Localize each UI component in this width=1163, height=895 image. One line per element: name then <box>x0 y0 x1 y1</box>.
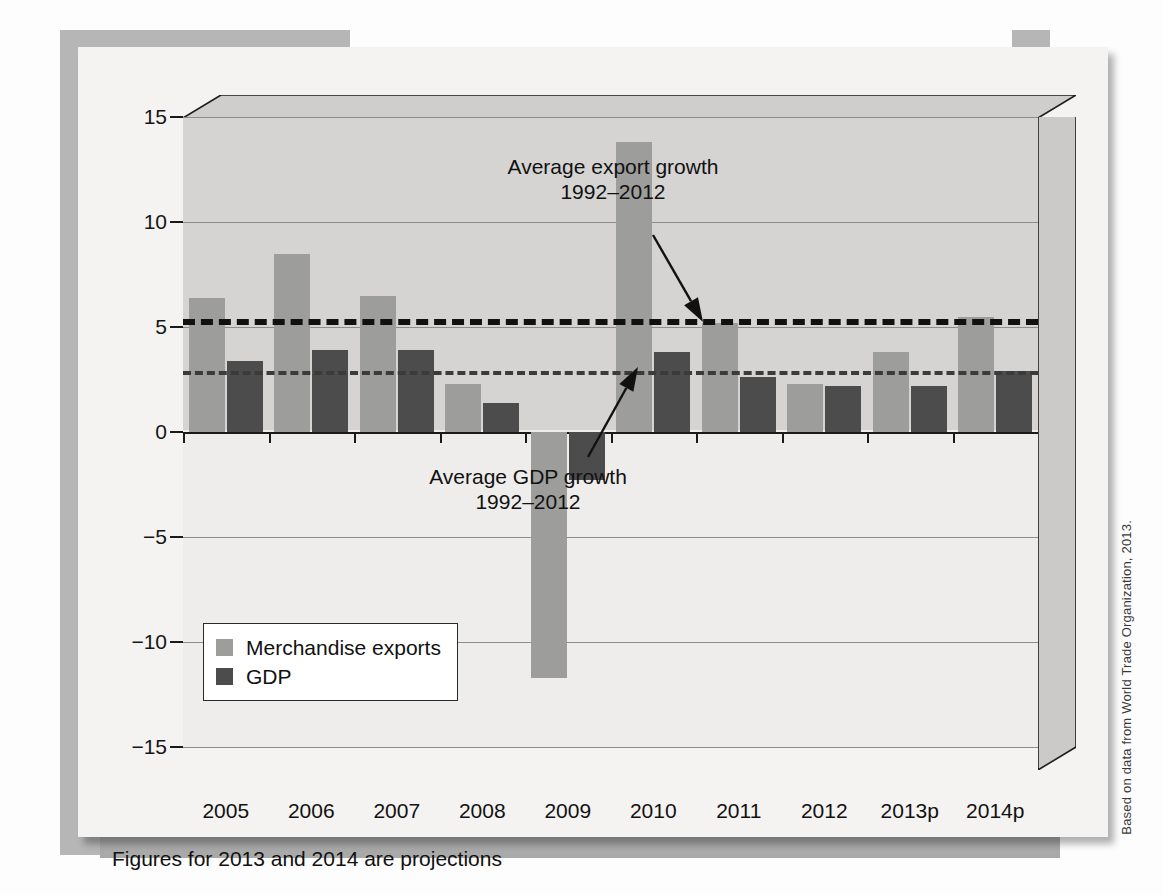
annotation-average-gdp-growth-line1: Average GDP growth <box>429 465 627 490</box>
bar-merchandise-exports-2006 <box>274 254 310 433</box>
x-axis-label-2009: 2009 <box>544 799 591 823</box>
average-gdp-growth-line <box>183 371 1038 375</box>
bar-gdp-2006 <box>312 350 348 432</box>
x-axis-label-2007: 2007 <box>373 799 420 823</box>
y-axis-tick-mark <box>170 641 183 643</box>
bar-gdp-2007 <box>398 350 434 432</box>
bar-gdp-2014p <box>996 371 1032 432</box>
average-export-growth-line <box>183 319 1038 325</box>
gridline <box>183 327 1038 328</box>
y-axis-tick-mark <box>170 326 183 328</box>
x-axis-tick-mark <box>183 432 185 443</box>
bar-gdp-2013p <box>911 386 947 432</box>
y-axis-tick-mark <box>170 746 183 748</box>
x-axis-tick-mark <box>525 432 527 443</box>
gridline <box>183 537 1038 538</box>
y-axis-tick-label: −5 <box>143 525 167 549</box>
bar-gdp-2012 <box>825 386 861 432</box>
x-axis-label-2013p: 2013p <box>881 799 939 823</box>
figure-page: 151050−5−10−15Average export growth1992–… <box>0 0 1163 895</box>
y-axis-tick-label: 10 <box>144 210 167 234</box>
bar-gdp-2008 <box>483 403 519 432</box>
y-axis-tick-mark <box>170 221 183 223</box>
figure-footnote: Figures for 2013 and 2014 are projection… <box>112 847 502 871</box>
y-axis-tick-mark <box>170 536 183 538</box>
y-axis-tick-mark <box>170 431 183 433</box>
x-axis-label-2014p: 2014p <box>966 799 1024 823</box>
y-axis-tick-label: 0 <box>155 420 167 444</box>
bar-merchandise-exports-2011 <box>702 323 738 432</box>
x-axis-label-2006: 2006 <box>288 799 335 823</box>
x-axis-label-2008: 2008 <box>459 799 506 823</box>
figure-card: 151050−5−10−15Average export growth1992–… <box>78 47 1108 837</box>
x-axis-labels: 200520062007200820092010201120122013p201… <box>183 799 1038 829</box>
source-credit: Based on data from World Trade Organizat… <box>1119 520 1134 835</box>
y-axis-tick-mark <box>170 116 183 118</box>
y-axis-tick-label: −10 <box>131 630 167 654</box>
bar-merchandise-exports-2013p <box>873 352 909 432</box>
x-axis-tick-mark <box>269 432 271 443</box>
y-axis-tick-label: −15 <box>131 735 167 759</box>
legend-item-merchandise-exports: Merchandise exports <box>216 633 441 662</box>
x-axis-label-2010: 2010 <box>630 799 677 823</box>
legend-label-merchandise-exports: Merchandise exports <box>246 636 441 660</box>
x-axis-tick-mark <box>867 432 869 443</box>
gridline <box>183 117 1038 118</box>
chart-box-right-bevel <box>1038 117 1076 770</box>
annotation-average-export-growth-line2: 1992–2012 <box>508 180 719 205</box>
x-axis-label-2005: 2005 <box>202 799 249 823</box>
annotation-average-gdp-growth: Average GDP growth1992–2012 <box>429 465 627 515</box>
x-axis-tick-mark <box>953 432 955 443</box>
legend-swatch-gdp <box>216 668 233 685</box>
bar-merchandise-exports-2007 <box>360 296 396 433</box>
x-axis-tick-mark <box>611 432 613 443</box>
x-axis-label-2011: 2011 <box>716 799 761 823</box>
x-axis-tick-mark <box>354 432 356 443</box>
y-axis-tick-label: 5 <box>155 315 167 339</box>
chart-3d-box: 151050−5−10−15Average export growth1992–… <box>126 95 1076 775</box>
bar-merchandise-exports-2008 <box>445 384 481 432</box>
legend-label-gdp: GDP <box>246 665 292 689</box>
legend-swatch-merchandise-exports <box>216 639 233 656</box>
bar-gdp-2011 <box>740 377 776 432</box>
gridline <box>183 222 1038 223</box>
legend-item-gdp: GDP <box>216 662 441 691</box>
chart-legend: Merchandise exports GDP <box>203 623 458 701</box>
gridline <box>183 747 1038 748</box>
bar-merchandise-exports-2012 <box>787 384 823 432</box>
x-axis-tick-mark <box>440 432 442 443</box>
y-axis-tick-label: 15 <box>144 105 167 129</box>
annotation-average-export-growth-line1: Average export growth <box>508 155 719 180</box>
x-axis-tick-mark <box>696 432 698 443</box>
annotation-average-gdp-growth-line2: 1992–2012 <box>429 490 627 515</box>
chart-box-top-bevel <box>183 95 1076 118</box>
bar-gdp-2010 <box>654 352 690 432</box>
x-axis-label-2012: 2012 <box>801 799 848 823</box>
annotation-average-export-growth: Average export growth1992–2012 <box>508 155 719 205</box>
x-axis-tick-mark <box>782 432 784 443</box>
